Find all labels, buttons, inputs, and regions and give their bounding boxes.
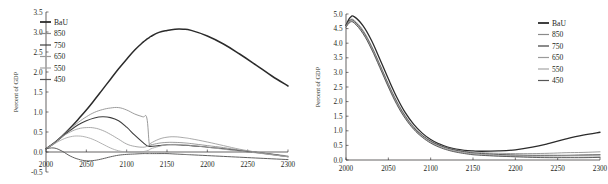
x-tick-label: 2050 (381, 165, 396, 173)
legend-label-650: 650 (54, 52, 66, 61)
legend-label-750: 750 (54, 41, 66, 50)
y-tick-label: 0.0 (34, 149, 43, 157)
x-tick-label: 2200 (508, 165, 523, 173)
y-tick-label: 1.5 (334, 113, 343, 121)
y-tick-label: 4.0 (334, 40, 343, 48)
legend-label-bau: BaU (552, 19, 566, 28)
y-tick-label: 0.5 (334, 142, 343, 150)
figure-two-panel-line-charts: -0.50.00.51.01.52.02.53.03.5200020502100… (0, 0, 608, 184)
x-tick-label: 2300 (281, 161, 296, 169)
y-tick-label: 3.5 (334, 54, 343, 62)
x-tick-label: 2000 (39, 161, 54, 169)
legend-label-450: 450 (552, 76, 564, 85)
x-tick-label: 2100 (119, 161, 134, 169)
chart-right-canvas: 0.00.51.01.52.02.53.03.54.04.55.02000205… (304, 0, 608, 184)
y-tick-label: 1.5 (34, 89, 43, 97)
y-tick-label: 0.0 (334, 157, 343, 165)
legend-label-bau: BaU (54, 18, 68, 27)
y-tick-label: 4.5 (334, 25, 343, 33)
x-tick-label: 2300 (593, 165, 608, 173)
x-tick-label: 2150 (466, 165, 481, 173)
x-tick-label: 2100 (423, 165, 438, 173)
y-tick-label: -0.5 (31, 169, 43, 177)
y-tick-label: 5.0 (334, 11, 343, 19)
x-tick-label: 2200 (200, 161, 215, 169)
series-line-bau (46, 29, 288, 149)
chart-panel-left: -0.50.00.51.01.52.02.53.03.5200020502100… (0, 0, 304, 184)
legend-label-650: 650 (552, 53, 564, 62)
legend-label-750: 750 (552, 42, 564, 51)
y-tick-label: 3.5 (34, 9, 43, 17)
legend-label-550: 550 (552, 65, 564, 74)
y-tick-label: 2.0 (34, 69, 43, 77)
y-tick-label: 1.0 (34, 109, 43, 117)
y-axis-title: Percent of GDP (12, 71, 19, 112)
legend-label-850: 850 (552, 30, 564, 39)
y-tick-label: 3.0 (34, 29, 43, 37)
x-tick-label: 2250 (550, 165, 565, 173)
series-line-650 (346, 20, 600, 156)
y-tick-label: 3.0 (334, 69, 343, 77)
series-line-750 (346, 20, 600, 156)
x-tick-label: 2000 (339, 165, 354, 173)
x-tick-label: 2150 (160, 161, 175, 169)
y-tick-label: 2.5 (34, 49, 43, 57)
x-tick-label: 2050 (79, 161, 94, 169)
y-tick-label: 1.0 (334, 127, 343, 135)
legend-label-850: 850 (54, 29, 66, 38)
legend-label-550: 550 (54, 64, 66, 73)
y-tick-label: 0.5 (34, 129, 43, 137)
x-tick-label: 2250 (240, 161, 255, 169)
legend-label-450: 450 (54, 75, 66, 84)
chart-left-canvas: -0.50.00.51.01.52.02.53.03.5200020502100… (0, 0, 304, 184)
y-tick-label: 2.5 (334, 84, 343, 92)
y-tick-label: 2.0 (334, 98, 343, 106)
chart-panel-right: 0.00.51.01.52.02.53.03.54.04.55.02000205… (304, 0, 608, 184)
y-axis-title: Percent of GDP (314, 66, 321, 107)
